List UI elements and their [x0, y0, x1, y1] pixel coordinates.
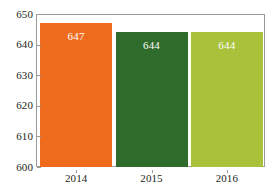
y-tick-mark [37, 45, 41, 46]
y-tick-label: 610 [0, 131, 33, 142]
bar-group: 644 [191, 14, 263, 167]
y-tick-mark [37, 136, 41, 137]
x-tick-mark [152, 170, 153, 173]
bar-chart: 600610620630640650 647644644 20142015201… [0, 0, 277, 191]
y-tick-label: 600 [0, 162, 33, 173]
y-tick-mark [37, 167, 41, 168]
y-axis: 600610620630640650 [0, 0, 33, 191]
x-tick-label: 2016 [207, 173, 247, 184]
bar-2015[interactable]: 644 [116, 32, 188, 167]
y-tick-mark [37, 75, 41, 76]
y-tick-mark [37, 14, 41, 15]
bar-group: 647 [40, 14, 112, 167]
bars-layer: 647644644 [36, 14, 265, 167]
x-tick-mark [227, 170, 228, 173]
x-tick-label: 2014 [56, 173, 96, 184]
x-axis: 201420152016 [36, 170, 265, 188]
y-tick-mark [37, 106, 41, 107]
bar-value-label: 647 [40, 31, 112, 42]
bar-value-label: 644 [191, 40, 263, 51]
y-tick-label: 620 [0, 100, 33, 111]
bar-group: 644 [116, 14, 188, 167]
x-tick-label: 2015 [132, 173, 172, 184]
x-tick-mark [76, 170, 77, 173]
y-tick-label: 650 [0, 9, 33, 20]
bar-2016[interactable]: 644 [191, 32, 263, 167]
bar-2014[interactable]: 647 [40, 23, 112, 167]
y-tick-label: 630 [0, 70, 33, 81]
y-tick-label: 640 [0, 39, 33, 50]
bar-value-label: 644 [116, 40, 188, 51]
